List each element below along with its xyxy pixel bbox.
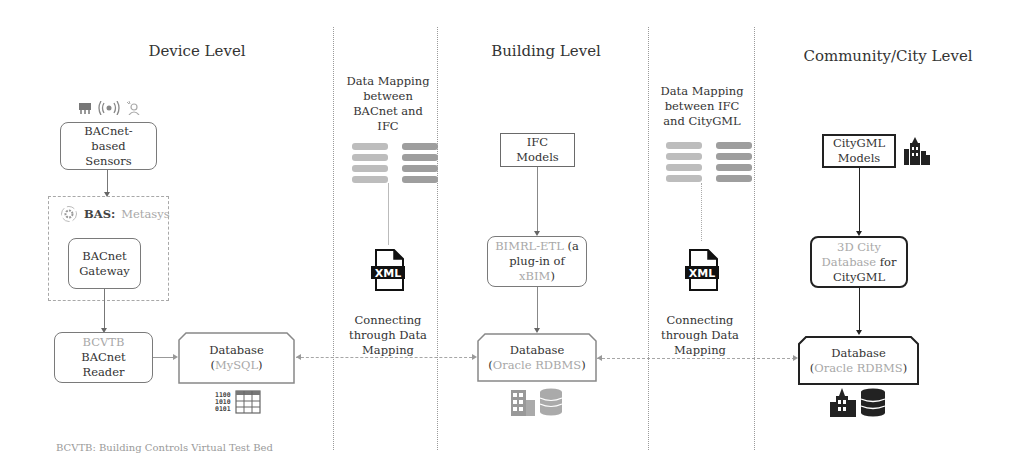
mapping1-title: Data Mapping between BACnet and IFC bbox=[346, 74, 429, 134]
xml-file-icon: XML bbox=[370, 249, 406, 291]
xml-label: XML bbox=[375, 267, 401, 280]
database-mysql-box: Database (MySQL) bbox=[178, 332, 295, 384]
box-label: Models bbox=[516, 150, 558, 165]
connector bbox=[388, 183, 389, 245]
paren: ) bbox=[258, 358, 263, 372]
xml-file-icon: XML bbox=[684, 249, 720, 291]
connector bbox=[107, 170, 108, 194]
mapping2-connect: Connecting through Data Mapping bbox=[661, 313, 739, 358]
box-label-muted: Oracle RDBMS bbox=[814, 361, 902, 375]
wireless-signal-icon bbox=[98, 101, 120, 115]
mapping-table-icon bbox=[666, 142, 752, 186]
divider bbox=[437, 27, 438, 450]
box-label: BACnet bbox=[81, 350, 125, 365]
note-line: Data Mapping bbox=[660, 84, 743, 99]
database-oracle-city-box: Database (Oracle RDBMS) bbox=[798, 336, 919, 385]
note-line: IFC bbox=[346, 119, 429, 134]
bimrl-etl-box: BIMRL-ETL (a plug-in of xBIM) bbox=[487, 236, 587, 287]
divider bbox=[754, 27, 755, 450]
box-label: Sensors bbox=[85, 154, 131, 169]
box-label: Database bbox=[831, 346, 885, 361]
database-icon bbox=[860, 388, 886, 417]
box-label-muted: Oracle RDBMS bbox=[493, 358, 581, 372]
box-label: Database bbox=[209, 343, 263, 358]
bas-label-bold: BAS: bbox=[84, 207, 115, 221]
mapping1-connect: Connecting through Data Mapping bbox=[349, 313, 427, 358]
divider bbox=[333, 27, 334, 450]
bas-label: BAS: Metasys bbox=[60, 205, 170, 223]
occupancy-sensor-icon bbox=[126, 101, 140, 115]
box-label-muted: 3D City bbox=[837, 240, 881, 255]
connector bbox=[104, 289, 105, 330]
box-label: CityGML bbox=[833, 136, 885, 151]
arrow-head bbox=[856, 330, 862, 335]
binary-table-icon: 1100 1010 0101 bbox=[215, 390, 261, 414]
database-icon bbox=[539, 388, 563, 416]
box-label: ) bbox=[550, 269, 555, 283]
building-database-icons bbox=[510, 388, 563, 416]
table-icon bbox=[235, 390, 261, 414]
chip-icon bbox=[78, 102, 92, 114]
sensor-icons bbox=[78, 101, 140, 115]
note-line: through Data bbox=[349, 328, 427, 343]
connector bbox=[537, 167, 538, 233]
bacnet-sensors-box: BACnet- based Sensors bbox=[60, 122, 157, 170]
box-label-muted: Database bbox=[822, 255, 876, 269]
connector bbox=[153, 357, 175, 358]
connector bbox=[859, 168, 860, 232]
note-line: between IFC bbox=[660, 99, 743, 114]
note-line: between bbox=[346, 89, 429, 104]
box-label: BACnet- bbox=[84, 124, 132, 139]
arrow-head bbox=[296, 354, 301, 360]
bas-label-muted: Metasys bbox=[121, 207, 169, 221]
bcvtb-bacnet-reader-box: BCVTB BACnet Reader bbox=[54, 332, 153, 383]
note-line: Data Mapping bbox=[346, 74, 429, 89]
box-label: BACnet bbox=[82, 249, 126, 264]
box-label: for bbox=[876, 255, 896, 269]
building-icon bbox=[510, 388, 536, 416]
note-line: and CityGML bbox=[660, 114, 743, 129]
box-label-muted: BCVTB bbox=[83, 335, 125, 350]
connector bbox=[537, 287, 538, 330]
footnote: BCVTB: Building Controls Virtual Test Be… bbox=[56, 442, 273, 453]
box-label: Database bbox=[510, 343, 564, 358]
box-label: Reader bbox=[83, 365, 125, 380]
note-line: Mapping bbox=[661, 343, 739, 358]
box-label: Gateway bbox=[79, 264, 130, 279]
note-line: through Data bbox=[661, 328, 739, 343]
xml-label: XML bbox=[689, 267, 715, 280]
box-label-muted: MySQL bbox=[215, 358, 258, 372]
note-line: Mapping bbox=[349, 343, 427, 358]
box-label: IFC bbox=[527, 135, 548, 150]
binary-text: 0101 bbox=[215, 406, 231, 413]
box-label: (a bbox=[564, 239, 579, 253]
box-label-muted: BIMRL-ETL bbox=[495, 239, 564, 253]
box-label-muted: xBIM bbox=[519, 269, 550, 283]
box-label: based bbox=[91, 139, 125, 154]
mapping-table-icon bbox=[352, 143, 438, 187]
ifc-models-box: IFC Models bbox=[500, 133, 575, 167]
box-label: plug-in of bbox=[509, 254, 565, 269]
box-label: CityGML bbox=[833, 270, 885, 285]
data-mapping-link bbox=[597, 358, 795, 359]
city-database-icons bbox=[829, 388, 886, 417]
divider bbox=[648, 27, 649, 450]
connector bbox=[701, 183, 702, 241]
mapping2-title: Data Mapping between IFC and CityGML bbox=[660, 84, 743, 129]
building-level-title: Building Level bbox=[491, 42, 601, 60]
box-label: Models bbox=[838, 151, 880, 166]
device-level-title: Device Level bbox=[148, 42, 245, 60]
paren: ) bbox=[903, 361, 908, 375]
citygml-models-box: CityGML Models bbox=[822, 134, 896, 168]
note-line: Connecting bbox=[349, 313, 427, 328]
connector bbox=[859, 288, 860, 332]
city-level-title: Community/City Level bbox=[803, 47, 972, 65]
note-line: BACnet and bbox=[346, 104, 429, 119]
note-line: Connecting bbox=[661, 313, 739, 328]
gear-icon bbox=[60, 205, 78, 223]
data-mapping-link bbox=[296, 357, 472, 358]
city-hall-icon bbox=[829, 388, 857, 417]
city-buildings-icon bbox=[903, 137, 931, 165]
database-oracle-building-box: Database (Oracle RDBMS) bbox=[477, 333, 597, 382]
bacnet-gateway-box: BACnet Gateway bbox=[68, 238, 141, 289]
